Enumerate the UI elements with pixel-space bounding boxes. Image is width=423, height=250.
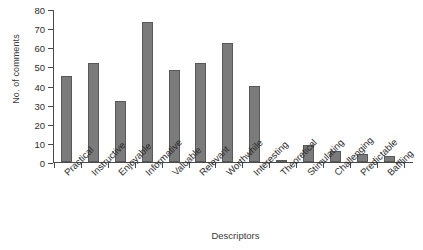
bar-chart: No. of comments 01020304050607080 Practi… xyxy=(0,0,423,250)
y-axis-tick-label: 40 xyxy=(34,81,45,92)
x-axis-title: Descriptors xyxy=(0,230,423,241)
y-axis-tick xyxy=(48,125,53,126)
plot-area: 01020304050607080 xyxy=(53,10,413,163)
y-axis-title: No. of comments xyxy=(11,14,21,124)
y-axis-tick xyxy=(48,144,53,145)
y-axis-tick-label: 20 xyxy=(34,119,45,130)
y-axis-line xyxy=(53,10,54,163)
y-axis-tick xyxy=(48,67,53,68)
y-axis-tick-label: 10 xyxy=(34,138,45,149)
y-axis-tick-label: 80 xyxy=(34,5,45,16)
y-axis-tick xyxy=(48,10,53,11)
y-axis-tick-label: 60 xyxy=(34,43,45,54)
y-axis-tick xyxy=(48,87,53,88)
y-axis-tick-label: 0 xyxy=(40,158,45,169)
y-axis-tick xyxy=(48,48,53,49)
y-axis-tick xyxy=(48,29,53,30)
y-axis-tick-label: 30 xyxy=(34,100,45,111)
bar xyxy=(61,76,72,162)
x-axis-tick xyxy=(54,163,55,168)
y-axis-tick xyxy=(48,163,53,164)
y-axis-tick xyxy=(48,106,53,107)
y-axis-tick-label: 50 xyxy=(34,62,45,73)
y-axis-tick-label: 70 xyxy=(34,24,45,35)
